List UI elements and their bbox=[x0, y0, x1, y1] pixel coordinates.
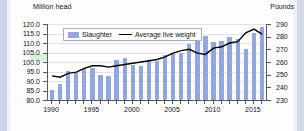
chart-legend: Slaughter Average live weight bbox=[63, 28, 202, 41]
x-tick-mark bbox=[188, 101, 189, 104]
x-tick-mark bbox=[140, 101, 141, 104]
y2-tick-mark bbox=[266, 87, 271, 88]
x-tick-mark bbox=[83, 101, 84, 104]
y2-tick-mark bbox=[266, 100, 271, 101]
legend-item-slaughter: Slaughter bbox=[68, 31, 112, 38]
y-tick-mark bbox=[43, 100, 47, 101]
x-tick-mark bbox=[196, 101, 197, 104]
y-tick-label: 110.0 bbox=[6, 40, 40, 47]
x-tick-mark bbox=[59, 101, 60, 104]
x-tick-label: 2005 bbox=[164, 106, 180, 113]
x-tick-mark bbox=[116, 101, 117, 104]
y-tick-mark bbox=[43, 91, 47, 92]
x-tick-mark bbox=[148, 101, 149, 104]
x-tick-mark bbox=[253, 101, 254, 104]
y-tick-mark bbox=[43, 81, 47, 82]
x-tick-mark bbox=[180, 101, 181, 104]
chart-figure: Million head Pounds 80.085.090.095.0100.… bbox=[0, 0, 304, 131]
x-tick-mark bbox=[75, 101, 76, 104]
x-tick-mark bbox=[51, 101, 52, 104]
x-tick-mark bbox=[245, 101, 246, 104]
y-tick-label: 80.0 bbox=[6, 97, 40, 104]
x-tick-mark bbox=[100, 101, 101, 104]
y-tick-label: 90.0 bbox=[6, 78, 40, 85]
y-tick-label: 100.0 bbox=[6, 59, 40, 66]
x-tick-mark bbox=[221, 101, 222, 104]
x-tick-mark bbox=[172, 101, 173, 104]
line-swatch-icon bbox=[119, 34, 132, 35]
x-tick-mark bbox=[213, 101, 214, 104]
x-tick-mark bbox=[124, 101, 125, 104]
y-tick-label: 95.0 bbox=[6, 68, 40, 75]
x-tick-mark bbox=[164, 101, 165, 104]
bar-swatch-icon bbox=[68, 32, 79, 38]
y-tick-mark bbox=[43, 34, 47, 35]
y-tick-label: 105.0 bbox=[6, 49, 40, 56]
y2-tick-label: 290 bbox=[276, 21, 300, 28]
y2-tick-mark bbox=[266, 49, 271, 50]
y-tick-label: 115.0 bbox=[6, 30, 40, 37]
y2-tick-label: 240 bbox=[276, 84, 300, 91]
y-tick-label: 85.0 bbox=[6, 87, 40, 94]
y2-tick-label: 250 bbox=[276, 71, 300, 78]
y2-tick-label: 270 bbox=[276, 46, 300, 53]
right-axis-title: Pounds bbox=[270, 3, 294, 10]
y2-tick-mark bbox=[266, 37, 271, 38]
y-tick-mark bbox=[43, 53, 47, 54]
x-tick-mark bbox=[229, 101, 230, 104]
x-tick-mark bbox=[91, 101, 92, 104]
y-tick-mark bbox=[43, 24, 47, 25]
x-tick-mark bbox=[237, 101, 238, 104]
y2-tick-mark bbox=[266, 62, 271, 63]
y2-tick-label: 230 bbox=[276, 97, 300, 104]
y2-tick-label: 260 bbox=[276, 59, 300, 66]
x-tick-mark bbox=[204, 101, 205, 104]
y-tick-mark bbox=[43, 72, 47, 73]
y2-tick-label: 280 bbox=[276, 33, 300, 40]
y2-tick-mark bbox=[266, 75, 271, 76]
x-tick-mark bbox=[67, 101, 68, 104]
legend-label-slaughter: Slaughter bbox=[82, 31, 112, 38]
x-tick-mark bbox=[261, 101, 262, 104]
x-tick-mark bbox=[156, 101, 157, 104]
x-tick-label: 1990 bbox=[43, 106, 59, 113]
x-tick-mark bbox=[108, 101, 109, 104]
x-tick-label: 2000 bbox=[124, 106, 140, 113]
x-tick-mark bbox=[132, 101, 133, 104]
y-tick-label: 120.0 bbox=[6, 21, 40, 28]
legend-item-average-live-weight: Average live weight bbox=[119, 31, 196, 38]
y-tick-mark bbox=[43, 62, 47, 63]
x-tick-label: 2010 bbox=[205, 106, 221, 113]
x-tick-label: 1995 bbox=[84, 106, 100, 113]
y2-tick-mark bbox=[266, 24, 271, 25]
y-tick-mark bbox=[43, 43, 47, 44]
legend-label-average-live-weight: Average live weight bbox=[135, 31, 196, 38]
x-tick-label: 2015 bbox=[245, 106, 261, 113]
left-axis-title: Million head bbox=[33, 3, 72, 10]
